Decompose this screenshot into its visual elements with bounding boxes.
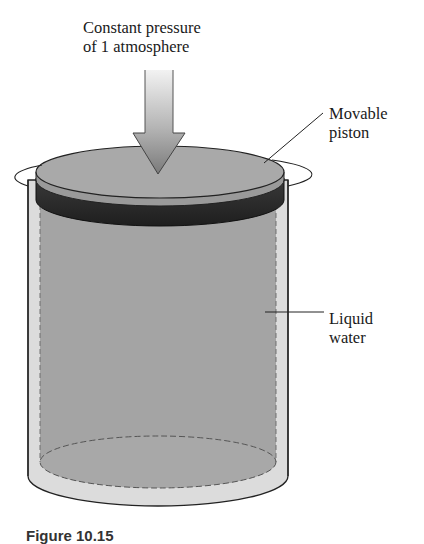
cylinder <box>28 180 288 506</box>
figure-caption: Figure 10.15 <box>26 527 114 544</box>
piston-label: Movable piston <box>329 104 388 142</box>
pressure-label: Constant pressure of 1 atmosphere <box>83 18 201 56</box>
piston-leader-line <box>264 113 323 163</box>
water-label-line-1: Liquid <box>329 309 373 328</box>
water-label-line-2: water <box>329 328 373 347</box>
pressure-label-line-2: of 1 atmosphere <box>83 37 201 56</box>
water-label: Liquid water <box>329 309 373 347</box>
piston-label-line-2: piston <box>329 123 388 142</box>
pressure-label-line-1: Constant pressure <box>83 18 201 37</box>
piston-label-line-1: Movable <box>329 104 388 123</box>
